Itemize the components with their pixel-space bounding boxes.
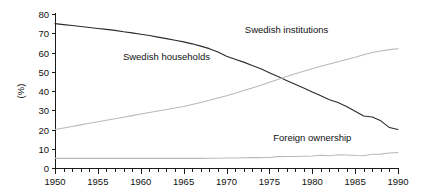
- x-tick-label: 1955: [87, 176, 108, 187]
- series-label: Swedish institutions: [245, 24, 329, 35]
- y-tick-label: 10: [38, 144, 49, 155]
- y-axis: 01020304050607080: [38, 9, 55, 174]
- line-chart: 01020304050607080 1950195519601965197019…: [0, 0, 429, 195]
- x-tick-label: 1990: [387, 176, 408, 187]
- x-tick-label: 1965: [173, 176, 194, 187]
- x-tick-label: 1960: [130, 176, 151, 187]
- y-tick-label: 30: [38, 105, 49, 116]
- x-tick-label: 1980: [302, 176, 323, 187]
- x-tick-label: 1970: [216, 176, 237, 187]
- series-line: [55, 24, 398, 130]
- x-tick-label: 1985: [345, 176, 366, 187]
- y-tick-label: 40: [38, 86, 49, 97]
- series-line: [55, 153, 398, 159]
- y-axis-title: (%): [15, 84, 26, 99]
- x-axis: 195019551960196519701975198019851990: [44, 169, 408, 188]
- x-tick-label: 1975: [259, 176, 280, 187]
- series-annotations: Swedish householdsSwedish institutionsFo…: [123, 24, 351, 143]
- series-label: Foreign ownership: [273, 132, 351, 143]
- y-tick-label: 20: [38, 125, 49, 136]
- y-tick-label: 80: [38, 9, 49, 20]
- y-tick-label: 70: [38, 28, 49, 39]
- series-line: [55, 49, 398, 130]
- x-tick-label: 1950: [44, 176, 65, 187]
- y-tick-label: 50: [38, 67, 49, 78]
- chart-container: 01020304050607080 1950195519601965197019…: [0, 0, 429, 195]
- y-tick-label: 0: [44, 163, 49, 174]
- y-axis-title-text: (%): [15, 84, 26, 99]
- series-label: Swedish households: [123, 51, 210, 62]
- y-tick-label: 60: [38, 48, 49, 59]
